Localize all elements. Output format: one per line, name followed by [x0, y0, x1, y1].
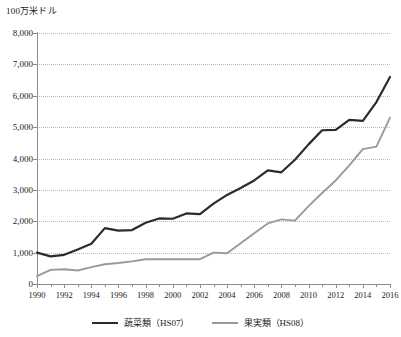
x-axis-tick-mark	[91, 284, 92, 288]
x-axis-tick-label: 2016	[382, 290, 399, 300]
x-axis-tick-mark	[105, 284, 106, 287]
x-axis-tick-label: 2010	[300, 290, 317, 300]
x-axis-tick-mark	[363, 284, 364, 288]
y-axis-tick-label: 3,000	[13, 185, 33, 195]
legend-line-swatch	[92, 322, 118, 324]
x-axis-tick-mark	[78, 284, 79, 287]
x-axis-tick-mark	[64, 284, 65, 288]
x-axis-tick-label: 2008	[273, 290, 290, 300]
y-axis-tick-label: 7,000	[13, 59, 33, 69]
x-axis-tick-label: 1994	[83, 290, 100, 300]
x-axis-tick-label: 1990	[29, 290, 46, 300]
chart-legend: 蔬菜類（HS07）果実類（HS08）	[0, 316, 401, 329]
x-axis-tick-mark	[390, 284, 391, 288]
x-axis-tick-label: 2002	[191, 290, 208, 300]
legend-line-swatch	[212, 322, 238, 324]
x-axis-tick-mark	[336, 284, 337, 288]
chart-container: 100万米ドル 8,0007,0006,0005,0004,0003,0002,…	[0, 0, 401, 337]
legend-label: 蔬菜類（HS07）	[124, 316, 190, 329]
x-axis-tick-label: 2012	[327, 290, 344, 300]
y-axis-tick-label: 6,000	[13, 91, 33, 101]
x-axis-tick-mark	[349, 284, 350, 287]
y-axis-tick-label: 8,000	[13, 28, 33, 38]
x-axis-tick-mark	[173, 284, 174, 288]
x-axis-tick-label: 2004	[219, 290, 236, 300]
x-axis-tick-label: 1996	[110, 290, 127, 300]
x-axis-tick-mark	[322, 284, 323, 287]
y-axis-tick-label: 1,000	[13, 248, 33, 258]
series-line	[37, 118, 390, 276]
x-axis-tick-label: 1998	[137, 290, 154, 300]
x-axis-tick-label: 2014	[354, 290, 371, 300]
legend-item[interactable]: 果実類（HS08）	[212, 316, 310, 329]
x-axis-tick-mark	[254, 284, 255, 288]
x-axis-tick-mark	[376, 284, 377, 287]
x-axis-tick-mark	[186, 284, 187, 287]
x-axis-tick-mark	[241, 284, 242, 287]
x-axis-tick-label: 1992	[56, 290, 73, 300]
series-line	[37, 77, 390, 256]
legend-label: 果実類（HS08）	[244, 316, 310, 329]
x-axis-tick-mark	[51, 284, 52, 287]
x-axis-tick-mark	[118, 284, 119, 288]
x-axis-tick-mark	[295, 284, 296, 287]
x-axis-tick-label: 2006	[246, 290, 263, 300]
y-axis-tick-labels: 8,0007,0006,0005,0004,0003,0002,0001,000…	[0, 0, 33, 337]
series-lines	[37, 33, 390, 284]
x-axis-tick-mark	[227, 284, 228, 288]
x-axis-tick-mark	[281, 284, 282, 288]
x-axis-tick-mark	[268, 284, 269, 287]
x-axis-tick-mark	[309, 284, 310, 288]
x-axis-tick-mark	[214, 284, 215, 287]
x-axis-tick-label: 2000	[164, 290, 181, 300]
x-axis-tick-mark	[200, 284, 201, 288]
y-axis-tick-label: 5,000	[13, 122, 33, 132]
y-axis-tick-label: 2,000	[13, 216, 33, 226]
x-axis-tick-mark	[159, 284, 160, 287]
x-axis-tick-mark	[132, 284, 133, 287]
x-axis-tick-mark	[146, 284, 147, 288]
legend-item[interactable]: 蔬菜類（HS07）	[92, 316, 190, 329]
x-axis-tick-mark	[37, 284, 38, 288]
y-axis-tick-label: 4,000	[13, 154, 33, 164]
